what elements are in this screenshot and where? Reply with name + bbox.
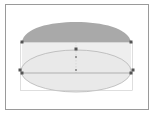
handle-top-center[interactable] (75, 48, 78, 51)
handle-right[interactable] (132, 69, 135, 72)
diagram-canvas (0, 0, 154, 116)
handle-top-right[interactable] (130, 41, 133, 44)
handle-right-lower[interactable] (130, 72, 133, 75)
handle-top-left[interactable] (21, 41, 24, 44)
handle-middle-center[interactable] (75, 69, 77, 71)
handle-center[interactable] (75, 56, 77, 58)
handle-left-lower[interactable] (21, 72, 24, 75)
handle-left[interactable] (19, 69, 22, 72)
